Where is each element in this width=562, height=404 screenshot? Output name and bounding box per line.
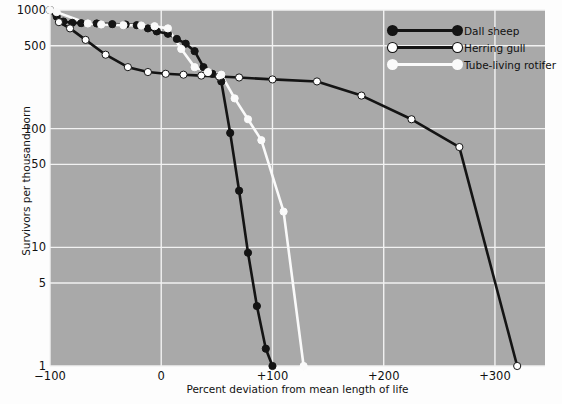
legend-label-0: Dall sheep: [464, 25, 519, 37]
x-tick-label: +100: [257, 369, 289, 383]
data-point-0-18: [227, 129, 234, 136]
legend-item-1[interactable]: Herring gull: [388, 39, 556, 56]
data-point-1-9: [198, 72, 205, 79]
data-point-2-6: [151, 23, 158, 30]
data-point-0-20: [244, 249, 251, 256]
data-point-2-5: [138, 22, 145, 29]
data-point-2-14: [258, 137, 265, 144]
legend-swatch-1: [388, 41, 462, 54]
x-tick-label: +300: [479, 369, 511, 383]
data-point-1-17: [514, 362, 521, 369]
data-point-0-9: [144, 25, 151, 32]
data-point-1-11: [236, 74, 243, 81]
data-point-1-8: [180, 71, 187, 78]
data-point-1-16: [456, 143, 463, 150]
legend-swatch-2: [388, 58, 462, 71]
data-point-0-21: [253, 302, 260, 309]
series-line-2: [50, 10, 304, 366]
data-point-1-2: [66, 25, 73, 32]
y-tick-label: 1000: [2, 3, 46, 17]
data-point-2-16: [300, 362, 307, 369]
data-point-0-12: [173, 35, 180, 42]
x-tick-label: −100: [34, 369, 66, 383]
data-point-2-8: [178, 45, 185, 52]
data-point-2-11: [218, 71, 225, 78]
x-axis-title: Percent deviation from mean length of li…: [50, 383, 545, 395]
data-point-1-13: [313, 78, 320, 85]
data-point-2-3: [98, 21, 105, 28]
data-point-1-15: [408, 116, 415, 123]
chart-legend: Dall sheepHerring gullTube-living rotife…: [388, 22, 556, 73]
legend-label-2: Tube-living rotifer: [464, 59, 556, 71]
data-point-1-14: [358, 92, 365, 99]
legend-item-2[interactable]: Tube-living rotifer: [388, 56, 556, 73]
y-axis-title: Survivors per thousand born: [20, 71, 32, 291]
data-point-2-13: [244, 116, 251, 123]
data-point-2-15: [280, 208, 287, 215]
data-point-1-6: [144, 68, 151, 75]
data-point-1-4: [102, 51, 109, 58]
data-point-1-7: [162, 70, 169, 77]
data-point-2-7: [164, 25, 171, 32]
legend-item-0[interactable]: Dall sheep: [388, 22, 556, 39]
data-point-1-1: [55, 19, 62, 26]
survivorship-curve-figure: 1000500100501051 −1000+100+200+300 Survi…: [0, 0, 562, 404]
data-point-0-14: [191, 48, 198, 55]
data-point-2-4: [120, 22, 127, 29]
data-point-2-10: [204, 68, 211, 75]
data-point-0-6: [109, 21, 116, 28]
data-point-2-12: [231, 95, 238, 102]
legend-swatch-0: [388, 24, 462, 37]
data-point-0-4: [78, 20, 85, 27]
data-point-1-5: [124, 64, 131, 71]
data-point-2-2: [84, 20, 91, 27]
data-point-2-9: [191, 64, 198, 71]
y-tick-label: 500: [2, 39, 46, 53]
x-tick-label: 0: [158, 369, 165, 383]
legend-label-1: Herring gull: [464, 42, 526, 54]
data-point-1-12: [269, 76, 276, 83]
data-point-1-3: [82, 36, 89, 43]
data-point-2-1: [53, 9, 60, 16]
data-point-2-0: [46, 6, 53, 13]
data-point-0-22: [262, 345, 269, 352]
x-tick-label: +200: [368, 369, 400, 383]
data-point-0-19: [236, 187, 243, 194]
